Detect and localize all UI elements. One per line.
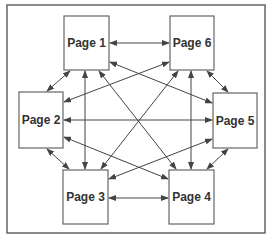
arrow-page2-page3 <box>47 149 69 169</box>
node-page6: Page 6 <box>170 16 214 70</box>
page-label: Page 6 <box>173 36 212 50</box>
node-page4: Page 4 <box>169 170 214 224</box>
page-label: Page 3 <box>66 190 105 204</box>
node-page1: Page 1 <box>64 16 109 70</box>
page-label: Page 5 <box>216 114 255 128</box>
page-label: Page 2 <box>22 113 61 127</box>
page-link-diagram: Page 1Page 6Page 2Page 5Page 3Page 4 <box>0 0 270 238</box>
arrow-page1-page2 <box>47 71 70 91</box>
page-label: Page 1 <box>67 36 106 50</box>
arrow-page5-page4 <box>207 149 228 169</box>
node-page3: Page 3 <box>63 170 108 224</box>
arrow-page6-page5 <box>207 71 228 92</box>
page-label: Page 4 <box>172 190 211 204</box>
node-page5: Page 5 <box>213 93 257 148</box>
node-page2: Page 2 <box>19 92 63 148</box>
